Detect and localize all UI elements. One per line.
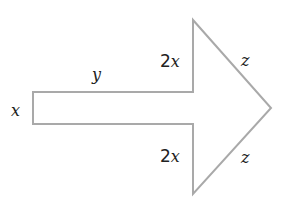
upper-step-coef: 2 bbox=[160, 51, 171, 71]
label-upper-slant: z bbox=[240, 51, 250, 70]
label-shaft-width: x bbox=[11, 101, 20, 120]
upper-step-var: x bbox=[171, 52, 180, 71]
label-lower-slant: z bbox=[240, 148, 250, 167]
label-lower-step: 2x bbox=[160, 146, 180, 166]
label-upper-step: 2x bbox=[160, 51, 180, 71]
label-shaft-length: y bbox=[91, 65, 102, 84]
arrow-diagram: x y 2x 2x z z bbox=[0, 0, 285, 197]
lower-step-var: x bbox=[171, 147, 180, 166]
arrow-shape bbox=[33, 20, 271, 194]
lower-step-coef: 2 bbox=[160, 146, 171, 166]
